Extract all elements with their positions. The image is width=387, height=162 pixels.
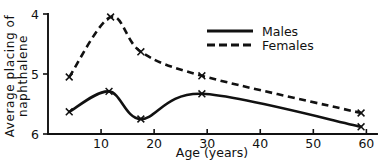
- series-line: [69, 91, 361, 126]
- legend-label-females: Females: [262, 38, 314, 53]
- legend-label-males: Males: [262, 24, 298, 39]
- x-tick-label: 50: [305, 136, 321, 151]
- series-males: [66, 88, 365, 130]
- x-tick-label: 60: [358, 136, 374, 151]
- series-females: [66, 14, 365, 117]
- chart-legend: MalesFemales: [207, 24, 314, 53]
- chart-figure: 102030405060 456 Age (years) Average pla…: [0, 0, 387, 162]
- y-tick-label: 6: [31, 127, 39, 142]
- data-point-marker: [66, 74, 73, 81]
- y-axis-title-line2: naphthalene: [16, 35, 30, 117]
- line-chart: 102030405060 456 Age (years) Average pla…: [0, 0, 387, 162]
- y-axis-title-line1: Average placing of: [3, 14, 17, 137]
- y-tick-label: 4: [31, 7, 39, 22]
- y-tick-label: 5: [31, 67, 39, 82]
- x-tick-label: 10: [93, 136, 109, 151]
- y-axis-tick-labels: 456: [31, 7, 39, 142]
- data-point-marker: [137, 48, 144, 55]
- x-axis-title: Age (years): [176, 145, 248, 160]
- x-tick-label: 20: [146, 136, 162, 151]
- x-tick-label: 40: [252, 136, 268, 151]
